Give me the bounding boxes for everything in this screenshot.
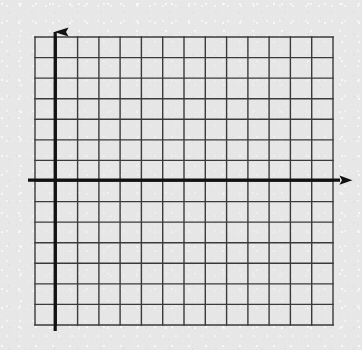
coordinate-grid-figure	[0, 0, 362, 350]
grid-svg-canvas	[0, 0, 362, 350]
page-root	[0, 0, 362, 350]
